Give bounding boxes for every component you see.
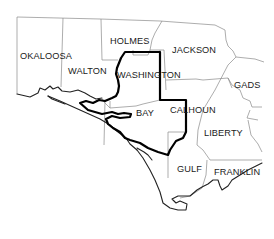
label-gadsden: GADS [234, 80, 260, 90]
coastline [17, 86, 262, 210]
label-liberty: LIBERTY [204, 128, 243, 138]
label-franklin: FRANKLIN [214, 167, 260, 177]
county-labels: OKALOOSA WALTON HOLMES JACKSON WASHINGTO… [20, 36, 260, 177]
label-okaloosa: OKALOOSA [20, 51, 73, 61]
label-jackson: JACKSON [172, 45, 216, 55]
label-gulf: GULF [177, 164, 202, 174]
label-calhoun: CALHOUN [170, 105, 216, 115]
label-holmes: HOLMES [110, 36, 149, 46]
panhandle-map: OKALOOSA WALTON HOLMES JACKSON WASHINGTO… [0, 0, 274, 239]
label-bay: BAY [136, 108, 154, 118]
label-walton: WALTON [68, 66, 107, 76]
label-washington: WASHINGTON [117, 70, 181, 80]
